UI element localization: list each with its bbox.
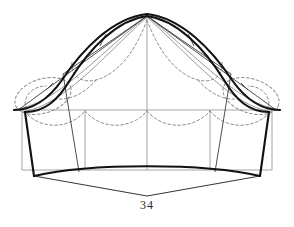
pattern-line-drawing [0,0,294,227]
figure-number-label: 34 [0,198,294,212]
figure-container: 34 [0,0,294,227]
